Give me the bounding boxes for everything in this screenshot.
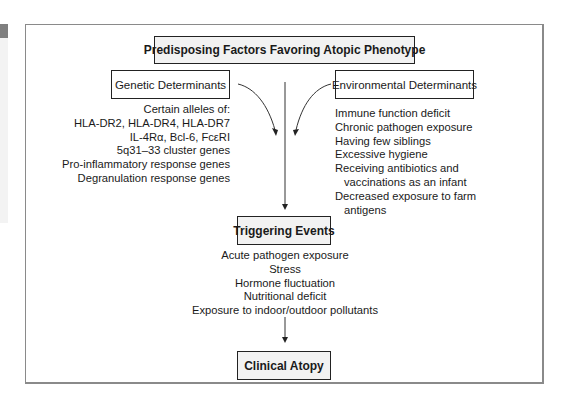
genetic-item: 5q31–33 cluster genes: [60, 144, 230, 158]
triggering-item: Stress: [185, 263, 385, 277]
predisposing-factors-title: Predisposing Factors Favoring Atopic Phe…: [144, 43, 426, 57]
triggering-events-list: Acute pathogen exposure Stress Hormone f…: [185, 249, 385, 318]
triggering-item: Acute pathogen exposure: [185, 249, 385, 263]
environmental-item: Immune function deficit: [335, 107, 535, 121]
triggering-item: Hormone fluctuation: [185, 277, 385, 291]
environmental-item: Chronic pathogen exposure: [335, 121, 535, 135]
environmental-determinants-box: Environmental Determinants: [335, 70, 474, 99]
genetic-item: HLA-DR2, HLA-DR4, HLA-DR7: [60, 117, 230, 131]
genetic-determinants-box: Genetic Determinants: [111, 70, 230, 99]
genetic-determinants-list: Certain alleles of: HLA-DR2, HLA-DR4, HL…: [60, 103, 230, 186]
genetic-determinants-label: Genetic Determinants: [115, 79, 226, 91]
triggering-events-box: Triggering Events: [237, 216, 331, 245]
genetic-item: Degranulation response genes: [60, 172, 230, 186]
genetic-curve-arrow: [238, 84, 275, 130]
triggering-item: Nutritional deficit: [185, 290, 385, 304]
genetic-item: IL-4Rα, Bcl-6, FcεRI: [60, 131, 230, 145]
predisposing-factors-box: Predisposing Factors Favoring Atopic Phe…: [154, 36, 415, 64]
clinical-atopy-label: Clinical Atopy: [244, 359, 324, 373]
environmental-item: Receiving antibiotics and: [335, 162, 535, 176]
environmental-item: antigens: [335, 204, 535, 218]
environmental-determinants-list: Immune function deficit Chronic pathogen…: [335, 107, 535, 217]
genetic-item: Pro-inflammatory response genes: [60, 158, 230, 172]
environmental-item: vaccinations as an infant: [335, 176, 535, 190]
environmental-determinants-label: Environmental Determinants: [332, 79, 477, 91]
environmental-curve-arrow: [296, 84, 331, 130]
environmental-item: Decreased exposure to farm: [335, 190, 535, 204]
triggering-events-label: Triggering Events: [233, 224, 334, 238]
clinical-atopy-box: Clinical Atopy: [237, 351, 331, 380]
genetic-item: Certain alleles of:: [60, 103, 230, 117]
environmental-item: Having few siblings: [335, 135, 535, 149]
environmental-item: Excessive hygiene: [335, 148, 535, 162]
triggering-item: Exposure to indoor/outdoor pollutants: [185, 304, 385, 318]
